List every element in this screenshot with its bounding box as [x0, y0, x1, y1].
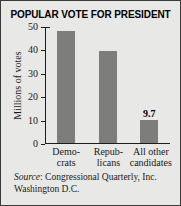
bar-value-label: 9.7 — [143, 109, 156, 119]
y-tick-label: 10 — [28, 116, 38, 126]
y-tick-mark — [41, 97, 45, 98]
source-label: Source — [14, 172, 40, 182]
y-tick-mark — [41, 144, 45, 145]
bar — [99, 51, 117, 143]
x-axis-categories: Demo-cratsRepub-licansAll othercandidate… — [45, 146, 172, 168]
x-category-line-2: licans — [87, 157, 129, 168]
source-note: Source: Congressional Quarterly, Inc. Wa… — [14, 172, 176, 195]
chart-figure: POPULAR VOTE FOR PRESIDENT Millions of v… — [0, 0, 181, 206]
x-category-line-1: All other — [133, 146, 169, 157]
x-category-line-1: Repub- — [94, 146, 123, 157]
bar — [57, 31, 75, 143]
y-tick-mark — [41, 27, 45, 28]
y-tick-label: 0 — [33, 139, 38, 149]
x-category-label: All othercandidates — [130, 146, 172, 168]
source-line-1: Congressional Quarterly, Inc. — [43, 172, 157, 182]
x-category-label: Demo-crats — [45, 146, 87, 168]
x-category-label: Repub-licans — [87, 146, 129, 168]
x-category-line-2: crats — [45, 157, 87, 168]
y-tick-mark — [41, 121, 45, 122]
y-tick-label: 50 — [28, 22, 38, 32]
y-tick-mark — [41, 74, 45, 75]
plot-area: 01020304050 9.7 — [45, 27, 170, 144]
y-axis-top-cap — [45, 27, 50, 28]
y-tick-label: 20 — [28, 92, 38, 102]
source-line-2: Washington D.C. — [14, 184, 79, 194]
y-axis-line — [45, 27, 46, 144]
y-tick-mark — [41, 50, 45, 51]
x-category-line-2: candidates — [130, 157, 172, 168]
y-axis-label: Millions of votes — [10, 27, 24, 144]
x-axis-line — [45, 143, 170, 144]
y-tick-label: 40 — [28, 45, 38, 55]
y-tick-label: 30 — [28, 69, 38, 79]
x-category-line-1: Demo- — [52, 146, 80, 157]
chart-title: POPULAR VOTE FOR PRESIDENT — [1, 9, 180, 20]
bar — [140, 120, 158, 143]
